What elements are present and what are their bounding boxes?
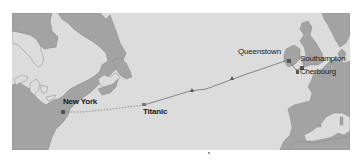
marker-new-york[interactable] bbox=[61, 110, 65, 114]
marker-arrow-2 bbox=[230, 76, 234, 80]
route-traveled bbox=[144, 60, 302, 105]
label-cherbourg: Cherbourg bbox=[300, 68, 336, 76]
map-frame bbox=[12, 13, 350, 150]
route-planned-remaining bbox=[64, 105, 144, 112]
marker-arrow-1 bbox=[190, 88, 194, 92]
map-canvas bbox=[12, 13, 350, 150]
land-scandinavia bbox=[322, 13, 350, 59]
marker-titanic[interactable] bbox=[142, 103, 146, 106]
marker-queenstown[interactable] bbox=[287, 59, 291, 63]
land-ireland bbox=[284, 45, 300, 67]
stray-mark bbox=[208, 152, 210, 154]
label-new-york: New York bbox=[63, 98, 97, 106]
marker-cherbourg[interactable] bbox=[296, 70, 299, 74]
label-queenstown: Queenstown bbox=[238, 48, 281, 56]
label-southampton: Southampton bbox=[300, 55, 345, 63]
label-titanic: Titanic bbox=[143, 108, 167, 116]
